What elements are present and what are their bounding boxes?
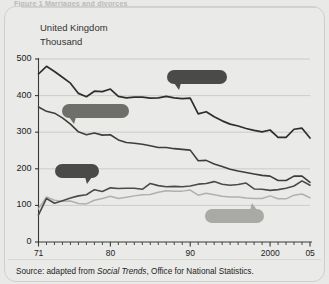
x-tick-label: 05 [305,248,314,258]
callout-tail-icon [250,203,257,210]
source-divider [8,259,321,260]
card-top-divider [21,7,316,8]
y-tick-label: 0 [6,236,32,246]
callout-tail-icon [69,117,76,124]
callout-remarriages: Remarriages [205,209,264,223]
y-tick-label: 200 [6,163,32,173]
x-tick-label: 2000 [261,248,280,258]
callout-first-marriages-label: First marriages [68,106,123,115]
x-tick-label: 80 [106,248,115,258]
callout-first-marriages: First marriages [62,104,129,118]
callout-divorces: Divorces [55,164,99,178]
figure-page: Figure 1 Marriages and divorces United K… [0,0,329,284]
source-note: Source: adapted from Social Trends, Offi… [16,267,254,276]
callout-divorces-label: Divorces [61,166,93,175]
units-label: Thousand [40,36,82,47]
region-label: United Kingdom [40,22,108,33]
source-prefix: Source: adapted from [16,267,97,276]
y-tick-label: 400 [6,90,32,100]
source-suffix: , Office for National Statistics. [146,267,253,276]
x-tick-label: 71 [34,248,43,258]
y-tick-label: 100 [6,199,32,209]
x-tick-label: 90 [186,248,195,258]
callout-remarriages-label: Remarriages [211,211,258,220]
y-tick-label: 500 [6,53,32,63]
figure-card [4,6,325,282]
y-tick-label: 300 [6,126,32,136]
callout-all-marriages-label: All marriages [173,72,221,81]
callout-tail-icon [174,83,181,90]
callout-all-marriages: All marriages [167,70,227,84]
source-publication: Social Trends [97,267,146,276]
callout-tail-icon [85,177,92,184]
